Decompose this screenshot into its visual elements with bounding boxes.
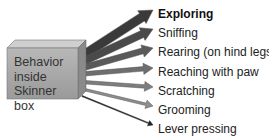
source-label-line-3: Skinner box [14,84,78,113]
source-box-label: Behavior inside Skinner box [14,55,78,113]
behavior-label-rearing: Rearing (on hind legs) [158,45,269,59]
behavior-label-sniffing: Sniffing [158,26,198,40]
behavior-label-grooming: Grooming [158,103,211,117]
source-label-line-2: inside [14,70,78,85]
arrow-scratching [82,80,153,91]
box-top-face [7,40,86,48]
arrow-lever-pressing [82,96,153,126]
behavior-label-lever-pressing: Lever pressing [158,122,237,136]
arrow-grooming [82,88,153,109]
behavior-label-scratching: Scratching [158,84,215,98]
behavior-arrows [80,10,153,126]
behavior-label-reaching: Reaching with paw [158,65,259,79]
source-label-line-1: Behavior [14,55,78,70]
skinner-box-diagram: Behavior inside Skinner box Exploring Sn… [0,0,269,138]
box-side-face [78,40,86,99]
behavior-label-exploring: Exploring [158,7,213,21]
